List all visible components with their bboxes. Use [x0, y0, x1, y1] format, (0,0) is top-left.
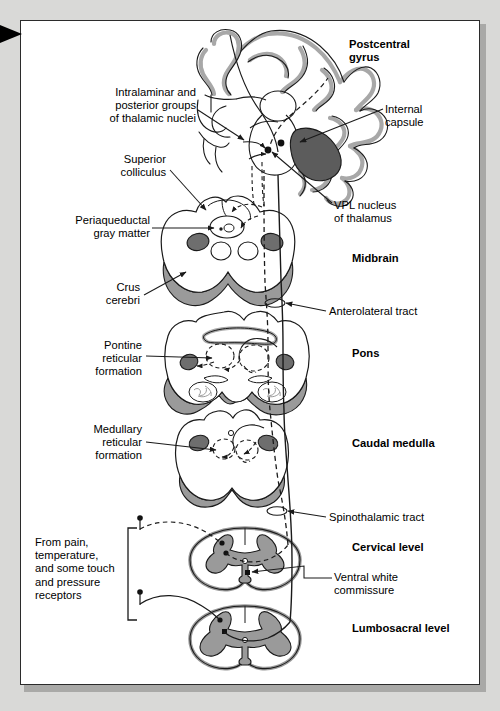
label-receptor-source: From pain, temperature, and some touch a…: [35, 536, 115, 602]
label-internal-capsule: Internal capsule: [385, 103, 424, 129]
label-pons: Pons: [352, 347, 379, 360]
midbrain-section: [161, 196, 295, 306]
label-medullary-reticular-formation: Medullary reticular formation: [0, 423, 142, 463]
pontine-nuclei-left: [189, 382, 217, 402]
pons-section: [164, 311, 309, 414]
label-caudal-medulla: Caudal medulla: [352, 437, 435, 450]
label-vpl-nucleus: VPL nucleus of thalamus: [334, 199, 396, 225]
periaqueductal-gray-shape: [210, 216, 244, 238]
cervical-ventral-commissure-cell: [245, 570, 250, 575]
red-nucleus-left: [211, 242, 231, 260]
pontine-nuclei-right: [258, 382, 286, 402]
label-midbrain: Midbrain: [352, 252, 399, 265]
lumbosacral-section: [137, 589, 300, 668]
label-postcentral-gyrus: Postcentral gyrus: [349, 38, 410, 64]
thalamus-outline: [236, 91, 299, 175]
cervical-section: [137, 515, 300, 589]
red-nucleus-right: [238, 242, 258, 260]
label-cervical-level: Cervical level: [352, 541, 424, 554]
receptor-source-bracket: [128, 528, 137, 620]
thalamic-relay-cell: [278, 140, 285, 147]
label-crus-cerebri: Crus cerebri: [0, 281, 140, 307]
label-lumbosacral-level: Lumbosacral level: [352, 622, 450, 635]
label-anterolateral-tract: Anterolateral tract: [329, 305, 417, 318]
label-ventral-white-commissure: Ventral white commissure: [334, 571, 398, 597]
medulla-central-canal: [228, 430, 233, 435]
leader-superior-colliculus: [170, 170, 206, 210]
leader-spinothalamic: [288, 511, 326, 517]
label-intralaminar-posterior-thalamic-nuclei: Intralaminar and posterior groups of tha…: [0, 86, 196, 126]
leader-anterolateral: [286, 303, 326, 311]
label-periaqueductal-gray-matter: Periaqueductal gray matter: [0, 214, 150, 240]
label-superior-colliculus: Superior colliculus: [0, 153, 166, 179]
figure-root: Postcentral gyrus Internal capsule VPL n…: [0, 0, 500, 711]
intralaminar-projection-fibers: [243, 142, 266, 159]
label-pontine-reticular-formation: Pontine reticular formation: [0, 339, 142, 379]
cervical-dorsal-horn-cell: [219, 540, 224, 545]
label-spinothalamic-tract: Spinothalamic tract: [329, 511, 424, 524]
